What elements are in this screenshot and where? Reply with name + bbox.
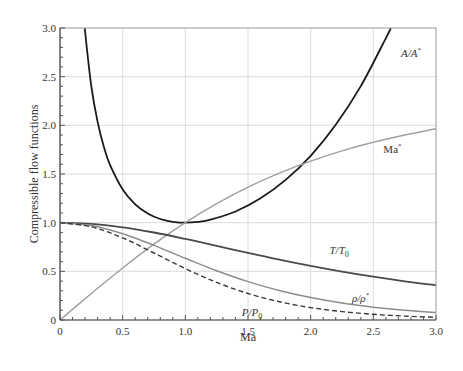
- y-tick-label: 0: [51, 314, 57, 326]
- axis-ticks: 00.51.01.52.02.53.000.51.01.52.02.53.0: [42, 22, 443, 337]
- x-tick-label: 2.5: [366, 325, 380, 337]
- series-label: A/A*: [400, 46, 422, 59]
- y-tick-label: 3.0: [42, 22, 56, 34]
- x-tick-label: 1.0: [178, 325, 192, 337]
- series-label: P/P0: [241, 306, 263, 321]
- series-label: Ma*: [383, 142, 402, 155]
- y-axis-label: Compressible flow functions: [27, 104, 41, 243]
- y-tick-label: 2.0: [42, 119, 56, 131]
- compressible-flow-chart: 00.51.01.52.02.53.000.51.01.52.02.53.0 A…: [0, 0, 463, 371]
- series-label: T/T0: [329, 244, 348, 259]
- y-tick-label: 2.5: [42, 71, 56, 83]
- chart-svg: 00.51.01.52.02.53.000.51.01.52.02.53.0 A…: [0, 0, 463, 371]
- grid-lines: [60, 28, 436, 320]
- x-tick-label: 0: [57, 325, 63, 337]
- y-tick-label: 1.0: [42, 217, 56, 229]
- x-tick-label: 0.5: [116, 325, 130, 337]
- series-label: ρ/ρ*: [351, 291, 370, 304]
- x-axis-label: Ma: [240, 330, 257, 344]
- x-tick-label: 2.0: [304, 325, 318, 337]
- y-tick-label: 1.5: [42, 168, 56, 180]
- y-tick-label: 0.5: [42, 265, 56, 277]
- x-tick-label: 3.0: [429, 325, 443, 337]
